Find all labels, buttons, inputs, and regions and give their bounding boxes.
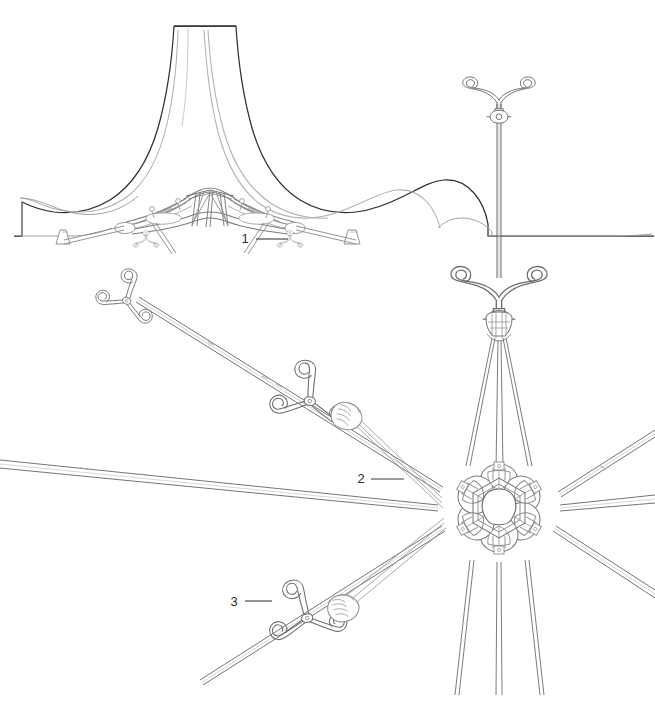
- drawing-sheet: 1 2 3: [0, 0, 655, 709]
- technical-drawing-canvas: 1 2 3: [0, 0, 655, 709]
- callout-3-label: 3: [230, 594, 237, 609]
- callout-1-label: 1: [241, 231, 248, 246]
- hub-central-void: [482, 489, 516, 525]
- callout-2-label: 2: [357, 471, 364, 486]
